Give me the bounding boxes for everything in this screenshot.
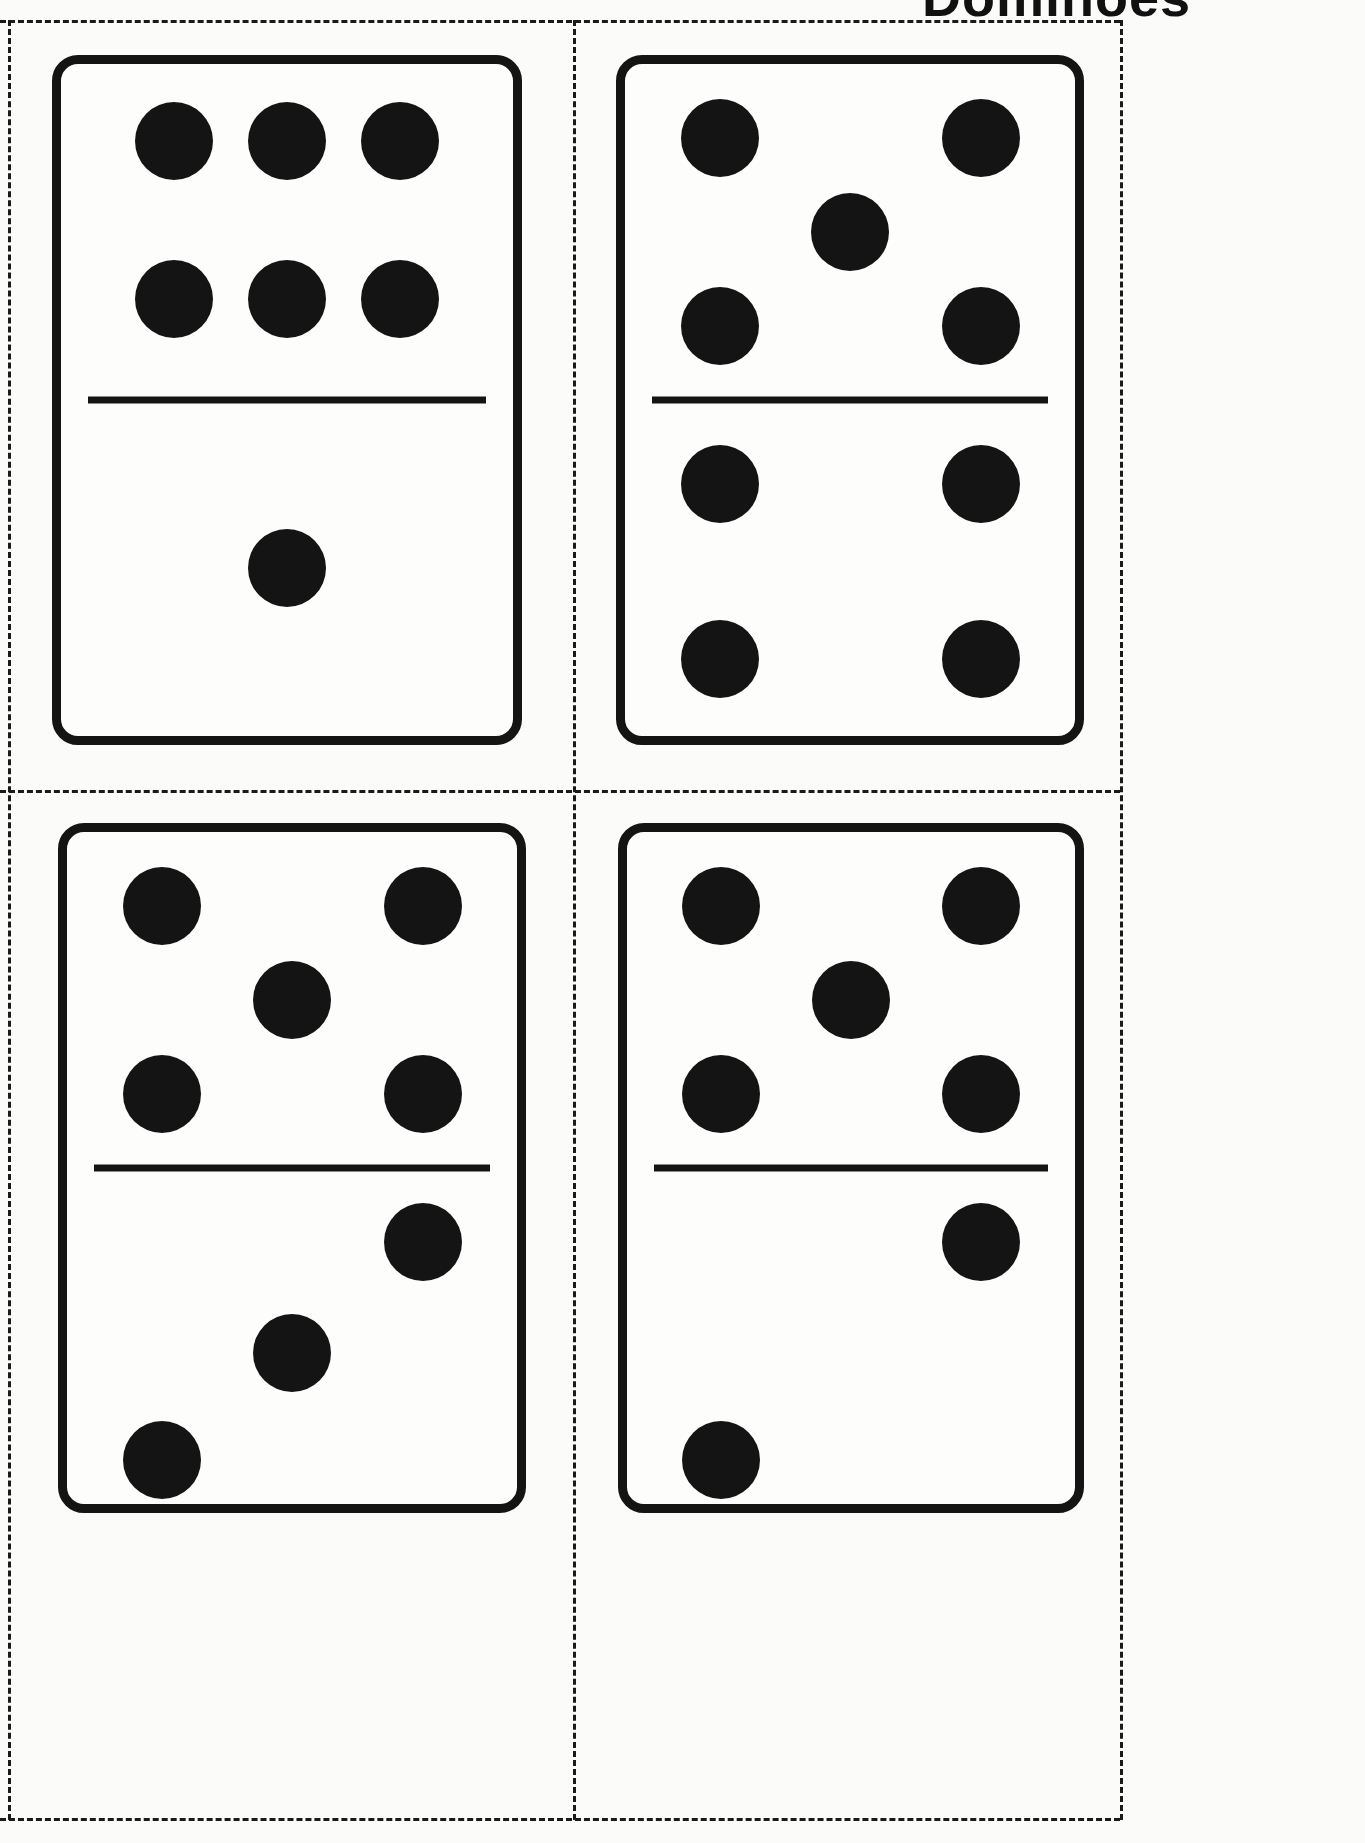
domino-pip (942, 445, 1020, 523)
domino-tile-6-1[interactable] (52, 55, 522, 745)
cut-line-horizontal-top (0, 20, 1120, 23)
cut-line-horizontal-middle (0, 790, 1120, 793)
domino-pip (681, 99, 759, 177)
cut-line-vertical-middle (573, 20, 576, 1820)
domino-pip (682, 1421, 760, 1499)
domino-pip (681, 620, 759, 698)
domino-pip (248, 529, 326, 607)
domino-pip (942, 287, 1020, 365)
domino-pip (135, 260, 213, 338)
domino-pip (942, 1055, 1020, 1133)
domino-pip (123, 867, 201, 945)
page-title: Dominoes (922, 0, 1191, 28)
domino-half-bottom-value-2 (627, 1168, 1075, 1504)
worksheet-page: Dominoes (0, 0, 1365, 1843)
domino-half-top-value-5 (625, 64, 1075, 400)
domino-pip (248, 260, 326, 338)
domino-pip (384, 1203, 462, 1281)
domino-half-top-value-6 (61, 64, 513, 400)
domino-pip (942, 620, 1020, 698)
domino-pip (384, 867, 462, 945)
cut-line-vertical-left (8, 20, 11, 1820)
domino-pip (135, 102, 213, 180)
domino-pip (361, 102, 439, 180)
cut-line-vertical-right (1120, 20, 1123, 1820)
domino-pip (681, 445, 759, 523)
domino-half-bottom-value-1 (61, 400, 513, 736)
domino-pip (248, 102, 326, 180)
domino-tile-5-2[interactable] (618, 823, 1084, 1513)
domino-pip (361, 260, 439, 338)
domino-pip (942, 1203, 1020, 1281)
domino-pip (812, 961, 890, 1039)
domino-half-bottom-value-3 (67, 1168, 517, 1504)
domino-pip (942, 867, 1020, 945)
domino-pip (942, 99, 1020, 177)
domino-pip (253, 1314, 331, 1392)
domino-pip (123, 1421, 201, 1499)
domino-tile-5-3[interactable] (58, 823, 526, 1513)
domino-pip (811, 193, 889, 271)
domino-pip (681, 287, 759, 365)
domino-pip (682, 1055, 760, 1133)
domino-pip (123, 1055, 201, 1133)
domino-half-bottom-value-4 (625, 400, 1075, 736)
cut-line-horizontal-bottom (0, 1818, 1120, 1821)
domino-pip (253, 961, 331, 1039)
domino-half-top-value-5 (67, 832, 517, 1168)
domino-half-top-value-5 (627, 832, 1075, 1168)
domino-pip (384, 1055, 462, 1133)
domino-tile-5-4[interactable] (616, 55, 1084, 745)
domino-pip (682, 867, 760, 945)
